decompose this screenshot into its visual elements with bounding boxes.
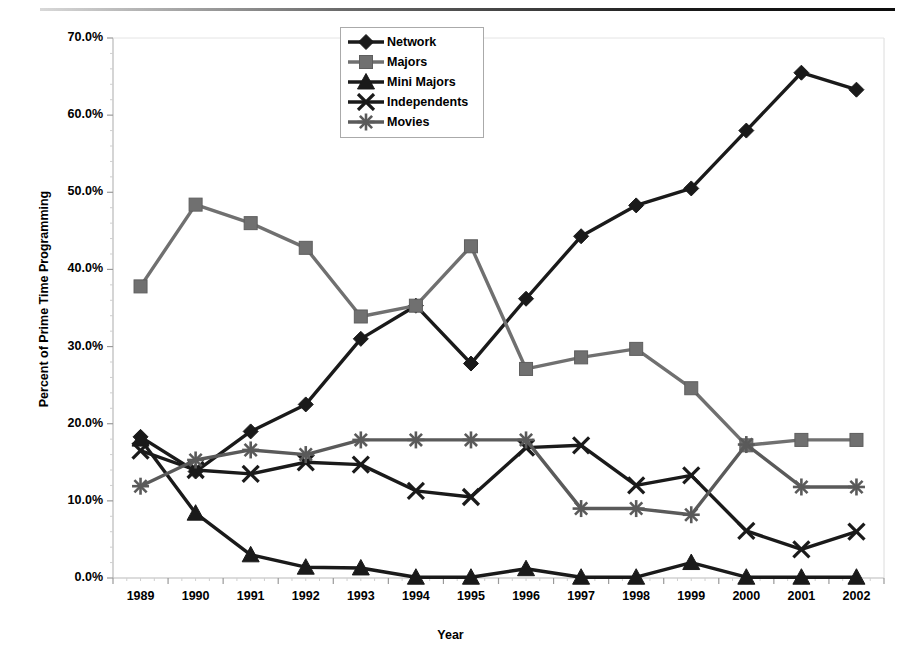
data-point-square <box>189 198 202 211</box>
data-point-asterisk <box>793 478 810 495</box>
data-point-x <box>848 524 864 540</box>
data-point-asterisk <box>848 478 865 495</box>
data-point-asterisk <box>358 114 375 131</box>
data-point-square <box>299 241 312 254</box>
x-tick-label: 2001 <box>771 589 831 603</box>
data-point-asterisk <box>242 441 259 458</box>
data-point-asterisk <box>407 431 424 448</box>
data-point-asterisk <box>297 446 314 463</box>
x-tick-label: 1999 <box>661 589 721 603</box>
chart-legend: NetworkMajorsMini MajorsIndependentsMovi… <box>340 27 484 138</box>
x-tick-label: 1993 <box>331 589 391 603</box>
data-point-asterisk <box>132 478 149 495</box>
data-point-square <box>409 299 422 312</box>
legend-item-independents: Independents <box>346 92 478 112</box>
data-point-asterisk <box>738 436 755 453</box>
legend-item-movies: Movies <box>346 112 478 132</box>
legend-label: Independents <box>387 96 468 109</box>
x-tick-label: 1996 <box>496 589 556 603</box>
y-tick-label: 70.0% <box>17 30 103 44</box>
data-point-diamond <box>849 82 864 97</box>
x-tick-label: 1991 <box>221 589 281 603</box>
data-point-asterisk <box>628 500 645 517</box>
series-mini-majors <box>132 431 865 585</box>
x-tick-label: 2000 <box>716 589 776 603</box>
x-tick-label: 1994 <box>386 589 446 603</box>
x-tick-label: 1997 <box>551 589 611 603</box>
data-point-asterisk <box>683 506 700 523</box>
data-point-square <box>520 362 533 375</box>
data-point-diamond <box>629 198 644 213</box>
x-tick-label: 1990 <box>166 589 226 603</box>
data-point-square <box>244 217 257 230</box>
y-axis-title: Percent of Prime Time Programming <box>37 169 51 429</box>
legend-marker-square-icon <box>346 53 386 71</box>
data-point-x <box>738 523 754 539</box>
y-tick-label: 50.0% <box>17 184 103 198</box>
line-chart: Percent of Prime Time Programming Year 0… <box>0 0 901 665</box>
x-tick-label: 1992 <box>276 589 336 603</box>
data-point-asterisk <box>187 451 204 468</box>
y-tick-label: 40.0% <box>17 261 103 275</box>
data-point-square <box>360 56 373 69</box>
data-point-asterisk <box>352 431 369 448</box>
data-point-triangle <box>683 554 700 569</box>
legend-label: Majors <box>387 56 427 69</box>
legend-item-majors: Majors <box>346 52 478 72</box>
data-point-asterisk <box>573 500 590 517</box>
legend-label: Movies <box>387 116 429 129</box>
legend-label: Network <box>387 36 436 49</box>
data-point-asterisk <box>518 431 535 448</box>
legend-item-mini-majors: Mini Majors <box>346 72 478 92</box>
series-independents <box>133 437 865 557</box>
series-network <box>133 65 864 479</box>
y-tick-label: 10.0% <box>17 493 103 507</box>
data-point-square <box>134 280 147 293</box>
data-point-square <box>795 433 808 446</box>
data-point-x <box>793 541 809 557</box>
data-point-square <box>354 310 367 323</box>
data-point-square <box>575 351 588 364</box>
y-tick-label: 0.0% <box>17 570 103 584</box>
data-point-asterisk <box>462 431 479 448</box>
legend-label: Mini Majors <box>387 76 456 89</box>
x-tick-label: 2002 <box>826 589 886 603</box>
data-point-square <box>685 382 698 395</box>
x-tick-label: 1998 <box>606 589 666 603</box>
x-axis-title: Year <box>0 628 901 642</box>
data-point-square <box>630 342 643 355</box>
x-tick-label: 1995 <box>441 589 501 603</box>
data-point-square <box>850 433 863 446</box>
legend-item-network: Network <box>346 32 478 52</box>
series-majors <box>134 198 863 452</box>
legend-marker-triangle-icon <box>346 73 386 91</box>
x-tick-label: 1989 <box>111 589 171 603</box>
y-tick-label: 20.0% <box>17 416 103 430</box>
data-point-diamond <box>359 35 374 50</box>
legend-marker-x-icon <box>346 93 386 111</box>
y-tick-label: 30.0% <box>17 339 103 353</box>
legend-marker-diamond-icon <box>346 33 386 51</box>
legend-marker-asterisk-icon <box>346 113 386 131</box>
data-point-square <box>464 240 477 253</box>
y-tick-label: 60.0% <box>17 107 103 121</box>
